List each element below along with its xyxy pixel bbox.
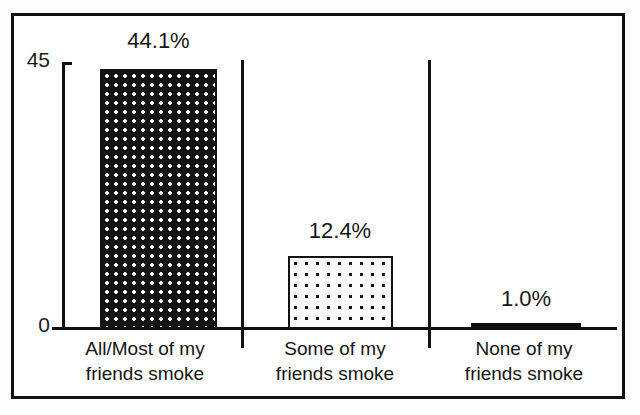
chart-frame-border (11, 13, 625, 399)
chart-screenshot: 45 0 44.1% 12.4% 1.0% All/Most of my fri… (0, 0, 640, 415)
clipped-title-region (0, 0, 640, 12)
